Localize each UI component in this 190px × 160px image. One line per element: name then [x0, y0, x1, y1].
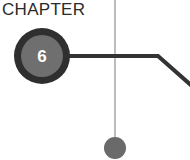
connector-line	[68, 56, 190, 86]
chapter-graphic: 6	[0, 0, 190, 160]
timeline-dot	[104, 137, 126, 159]
chapter-number: 6	[37, 47, 46, 66]
